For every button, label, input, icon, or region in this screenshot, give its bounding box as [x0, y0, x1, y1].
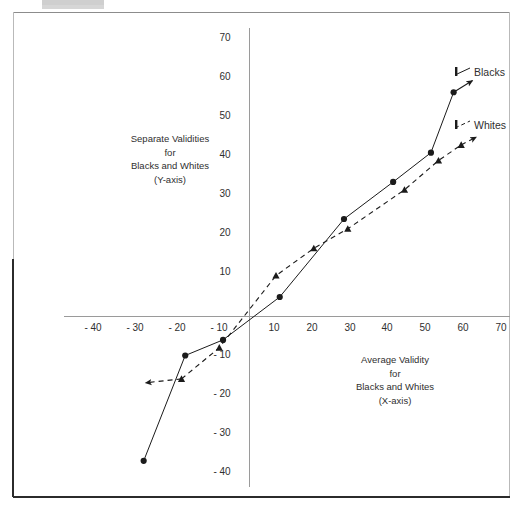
y-tick-neg20: - 20	[205, 388, 239, 399]
data-point-circle	[390, 179, 396, 185]
legend-label-blacks: Blacks	[474, 66, 505, 78]
series-end-arrow	[454, 81, 473, 93]
x-tick-neg20: - 20	[160, 322, 194, 333]
series-end-arrow	[461, 137, 476, 145]
data-point-circle	[141, 458, 147, 464]
data-point-circle	[428, 150, 434, 156]
y-tick-60: 60	[208, 71, 242, 82]
data-point-triangle	[310, 245, 317, 252]
legend-swatch-blacks	[455, 67, 470, 76]
x-tick-neg10: - 10	[202, 322, 236, 333]
legend-marker-cap	[455, 67, 457, 76]
data-point-circle	[277, 294, 283, 300]
x-tick-neg30: - 30	[118, 322, 152, 333]
legend-marker-cap	[455, 120, 457, 129]
data-point-triangle	[458, 141, 465, 148]
x-tick-neg40: - 40	[76, 322, 110, 333]
x-tick-30: 30	[333, 322, 367, 333]
y-tick-neg30: - 30	[205, 427, 239, 438]
y-tick-30: 30	[208, 188, 242, 199]
data-point-triangle	[344, 225, 351, 232]
data-point-triangle	[435, 157, 442, 164]
data-point-triangle	[272, 272, 279, 279]
x-tick-70: 70	[484, 322, 518, 333]
legend-swatch-whites	[455, 120, 470, 129]
data-point-circle	[451, 89, 457, 95]
x-tick-10: 10	[257, 322, 291, 333]
y-tick-20: 20	[208, 227, 242, 238]
y-tick-10: 10	[208, 266, 242, 277]
x-tick-50: 50	[408, 322, 442, 333]
data-point-circle	[341, 216, 347, 222]
y-tick-50: 50	[208, 110, 242, 121]
x-axis-title: Average Validity for Blacks and Whites (…	[332, 353, 458, 407]
y-tick-70: 70	[208, 32, 242, 43]
scatter-line-plot	[0, 0, 522, 510]
data-point-circle	[182, 352, 188, 358]
y-axis-title: Separate Validities for Blacks and White…	[108, 132, 232, 186]
chart-page: 70 60 50 40 30 20 10 - 10 - 20 - 30 - 40…	[0, 0, 522, 510]
legend-label-whites: Whites	[474, 119, 506, 131]
y-tick-neg40: - 40	[205, 466, 239, 477]
x-tick-40: 40	[370, 322, 404, 333]
x-tick-60: 60	[446, 322, 480, 333]
x-tick-20: 20	[295, 322, 329, 333]
y-tick-neg10: - 10	[205, 349, 239, 360]
